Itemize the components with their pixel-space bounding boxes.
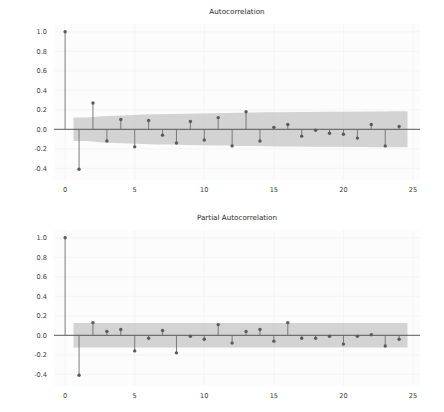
data-point — [342, 342, 345, 345]
data-point — [244, 110, 247, 113]
y-axis-tick-label: 1.0 — [37, 234, 48, 242]
y-axis-tick-label: -0.2 — [34, 351, 47, 359]
autocorrelation-plot: -0.4-0.20.00.20.40.60.81.00510152025Auto… — [0, 0, 444, 206]
y-axis-tick-label: -0.4 — [34, 371, 47, 379]
x-axis-tick-label: 20 — [339, 186, 347, 194]
data-point — [384, 344, 387, 347]
data-point — [258, 328, 261, 331]
data-point — [119, 328, 122, 331]
data-point — [300, 134, 303, 137]
y-axis-tick-label: 0.2 — [37, 312, 48, 320]
autocorrelation-panel: -0.4-0.20.00.20.40.60.81.00510152025Auto… — [0, 0, 444, 206]
data-point — [63, 30, 66, 33]
data-point — [161, 329, 164, 332]
data-point — [91, 321, 94, 324]
y-axis-tick-label: -0.4 — [34, 165, 47, 173]
data-point — [217, 323, 220, 326]
data-point — [397, 125, 400, 128]
acf-pacf-figure: -0.4-0.20.00.20.40.60.81.00510152025Auto… — [0, 0, 444, 412]
data-point — [314, 337, 317, 340]
y-axis-tick-label: 0.8 — [37, 254, 48, 262]
data-point — [328, 335, 331, 338]
x-axis-tick-label: 0 — [63, 186, 67, 194]
data-point — [105, 330, 108, 333]
x-axis-tick-label: 5 — [133, 392, 137, 400]
data-point — [175, 141, 178, 144]
chart-title: Partial Autocorrelation — [197, 213, 277, 222]
data-point — [356, 136, 359, 139]
data-point — [230, 341, 233, 344]
data-point — [147, 337, 150, 340]
data-point — [342, 132, 345, 135]
data-point — [286, 123, 289, 126]
data-point — [161, 133, 164, 136]
y-axis-tick-label: 0.6 — [37, 67, 48, 75]
x-axis-tick-label: 0 — [63, 392, 67, 400]
data-point — [91, 101, 94, 104]
x-axis-tick-label: 25 — [409, 392, 417, 400]
x-axis-tick-label: 15 — [270, 392, 278, 400]
partial-autocorrelation-plot: -0.4-0.20.00.20.40.60.81.00510152025Part… — [0, 200, 444, 412]
y-axis-tick-label: 0.4 — [37, 87, 48, 95]
data-point — [203, 338, 206, 341]
y-axis-tick-label: -0.2 — [34, 145, 47, 153]
data-point — [300, 337, 303, 340]
data-point — [370, 123, 373, 126]
data-point — [397, 338, 400, 341]
data-point — [314, 129, 317, 132]
data-point — [77, 168, 80, 171]
data-point — [203, 138, 206, 141]
data-point — [356, 335, 359, 338]
data-point — [175, 351, 178, 354]
data-point — [370, 333, 373, 336]
y-axis-tick-label: 0.6 — [37, 273, 48, 281]
y-axis-tick-label: 0.0 — [37, 332, 48, 340]
y-axis-tick-label: 0.2 — [37, 106, 48, 114]
data-point — [230, 144, 233, 147]
x-axis-tick-label: 15 — [270, 186, 278, 194]
data-point — [147, 119, 150, 122]
data-point — [63, 236, 66, 239]
x-axis-tick-label: 10 — [200, 392, 208, 400]
data-point — [77, 374, 80, 377]
data-point — [286, 321, 289, 324]
y-axis-tick-label: 0.0 — [37, 126, 48, 134]
data-point — [189, 120, 192, 123]
data-point — [272, 339, 275, 342]
x-axis-tick-label: 25 — [409, 186, 417, 194]
data-point — [258, 139, 261, 142]
x-axis-tick-label: 20 — [339, 392, 347, 400]
data-point — [133, 145, 136, 148]
data-point — [133, 349, 136, 352]
data-point — [384, 144, 387, 147]
data-point — [119, 118, 122, 121]
data-point — [328, 132, 331, 135]
y-axis-tick-label: 0.4 — [37, 293, 48, 301]
y-axis-tick-label: 0.8 — [37, 48, 48, 56]
data-point — [105, 139, 108, 142]
x-axis-tick-label: 10 — [200, 186, 208, 194]
chart-title: Autocorrelation — [209, 7, 264, 16]
partial-autocorrelation-panel: -0.4-0.20.00.20.40.60.81.00510152025Part… — [0, 200, 444, 412]
y-axis-tick-label: 1.0 — [37, 28, 48, 36]
data-point — [217, 116, 220, 119]
data-point — [189, 335, 192, 338]
data-point — [244, 330, 247, 333]
x-axis-tick-label: 5 — [133, 186, 137, 194]
data-point — [272, 126, 275, 129]
